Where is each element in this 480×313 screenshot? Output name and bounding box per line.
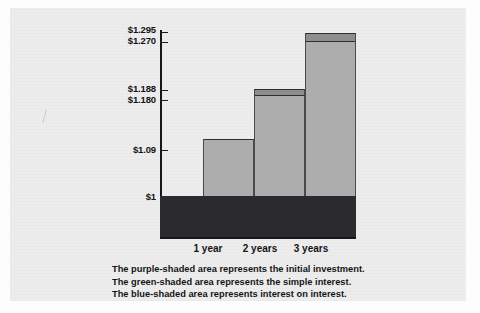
plot-area <box>160 30 356 239</box>
bar-segment-principal-2-years <box>254 196 305 237</box>
bar-segment-principal-initial <box>160 196 204 237</box>
figure-container: $1.295 $1.270 $1.188 $1.180 $1.09 $1 <box>0 0 480 313</box>
y-axis-label-1180: $1.180 <box>128 94 156 105</box>
y-tick-109 <box>162 150 168 151</box>
bar-segment-principal-1-year <box>203 196 254 237</box>
y-tick-1180 <box>162 100 168 101</box>
y-axis-label-1: $1 <box>146 191 156 202</box>
y-axis-label-1270: $1.270 <box>128 35 156 46</box>
x-axis-label-1-year: 1 year <box>178 243 238 254</box>
caption-line-initial-investment: The purple-shaded area represents the in… <box>112 263 442 276</box>
y-tick-1295 <box>162 32 168 33</box>
y-axis-labels: $1.295 $1.270 $1.188 $1.180 $1.09 $1 <box>92 30 156 239</box>
x-axis-label-3-years: 3 years <box>281 243 341 254</box>
x-axis-labels: 1 year 2 years 3 years <box>160 243 370 259</box>
y-axis-label-1188: $1.188 <box>128 83 156 94</box>
caption-line-simple-interest: The green-shaded area represents the sim… <box>112 276 442 289</box>
bar-column-1-year[interactable] <box>203 139 254 237</box>
bar-segment-interest-on-interest-2-years <box>254 89 305 95</box>
caption-line-interest-on-interest: The blue-shaded area represents interest… <box>112 288 442 301</box>
bar-segment-simple-interest-2-years <box>254 95 305 196</box>
bar-segment-simple-interest-3-years <box>305 41 356 196</box>
y-tick-1270 <box>162 42 168 43</box>
y-axis-label-1295: $1.295 <box>128 24 156 35</box>
bar-column-2-years[interactable] <box>254 89 305 237</box>
x-axis-line <box>160 237 356 239</box>
y-tick-1188 <box>162 90 168 91</box>
chart-caption: The purple-shaded area represents the in… <box>112 263 442 301</box>
y-axis-label-109: $1.09 <box>133 144 156 155</box>
bar-column-initial <box>160 196 204 237</box>
bar-segment-interest-on-interest-3-years <box>305 33 356 41</box>
bar-segment-simple-interest-1-year <box>203 139 254 196</box>
bar-segment-principal-3-years <box>305 196 356 237</box>
bar-column-3-years[interactable] <box>305 33 356 237</box>
